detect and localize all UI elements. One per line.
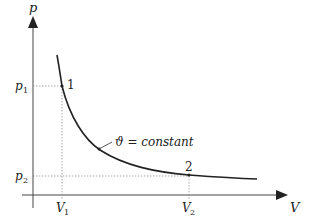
- svg-text:2: 2: [185, 160, 193, 174]
- x-tick-v2: V 2: [182, 201, 195, 217]
- svg-text:p: p: [15, 79, 23, 93]
- svg-text:1: 1: [67, 78, 75, 92]
- svg-text:ϑ = constant: ϑ = constant: [115, 135, 194, 149]
- y-axis: p: [28, 0, 38, 208]
- y-axis-label: p: [29, 0, 38, 15]
- isotherm-curve: [57, 55, 257, 179]
- x-tick-v1: V 1: [56, 201, 69, 217]
- y-tick-p2: p 2: [15, 169, 28, 185]
- constant-text: = constant: [124, 135, 194, 149]
- curve-label: ϑ = constant: [98, 135, 194, 150]
- pv-diagram: p V p 1 p 2 V 1 V 2 1 2: [0, 0, 312, 224]
- svg-text:2: 2: [23, 176, 28, 185]
- x-axis-label: V: [290, 200, 301, 215]
- svg-text:1: 1: [64, 208, 69, 217]
- y-tick-p1: p 1: [15, 79, 28, 95]
- x-axis-arrow-icon: [276, 190, 288, 200]
- svg-text:1: 1: [23, 86, 28, 95]
- svg-text:2: 2: [190, 208, 195, 217]
- svg-text:p: p: [15, 169, 23, 183]
- y-axis-arrow-icon: [28, 16, 38, 28]
